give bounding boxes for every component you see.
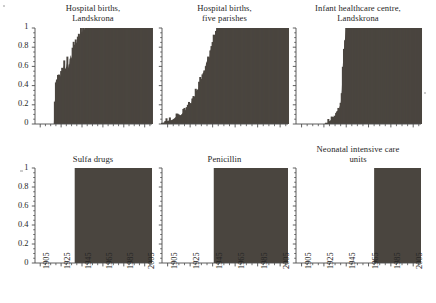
x-tick-label: 1905	[171, 252, 179, 269]
multi-panel-figure: Hospital births, Landskrona00.20.40.60.8…	[0, 0, 436, 303]
y-tick-label: 0.8	[3, 42, 29, 50]
panel-neonatal-intensive-care-units: Neonatal intensive care units	[296, 168, 421, 263]
series-yearly-bars	[160, 28, 288, 124]
x-tick-label: 1965	[238, 252, 246, 269]
x-tick-label: 1905	[305, 252, 313, 269]
y-tick-label: 1	[3, 164, 29, 172]
x-tick-label: 2005	[148, 252, 156, 269]
y-tick-label: 0.2	[3, 100, 29, 108]
series-yearly-bars	[325, 28, 422, 124]
y-tick-label: 0.4	[3, 221, 29, 229]
y-tick-label: 0.2	[3, 240, 29, 248]
x-tick-label: 1985	[261, 252, 269, 269]
panel-hospital-births-landskrona: Hospital births, Landskrona	[35, 28, 152, 124]
y-tick-label: 0.4	[3, 81, 29, 89]
scan-speck	[20, 170, 23, 172]
y-tick-label: 0	[3, 259, 29, 267]
scan-speck	[3, 5, 5, 7]
plot-area-hospital-births-five-parishes	[162, 28, 298, 134]
x-tick-label: 1985	[127, 252, 135, 269]
x-tick-label: 1925	[64, 252, 72, 269]
x-tick-label: 1985	[394, 252, 402, 269]
panel-penicillin: Penicillin	[162, 168, 288, 263]
x-tick-label: 1925	[327, 252, 335, 269]
panel-hospital-births-five-parishes: Hospital births, five parishes	[162, 28, 288, 124]
panel-title: Infant healthcare centre, Landskrona	[268, 3, 436, 23]
x-tick-label: 2005	[283, 252, 291, 269]
x-tick-label: 1945	[349, 252, 357, 269]
x-tick-label: 1925	[193, 252, 201, 269]
y-tick-label: 1	[3, 23, 29, 31]
x-tick-label: 1965	[106, 252, 114, 269]
series-yearly-bars	[53, 28, 152, 124]
series-area	[374, 168, 421, 263]
plot-area-hospital-births-landskrona	[35, 28, 162, 134]
y-tick-label: 0.6	[3, 202, 29, 210]
panel-sulfa-drugs: Sulfa drugs	[35, 168, 152, 263]
scan-speck	[424, 92, 426, 94]
series-area	[213, 168, 287, 263]
series-area	[74, 168, 151, 263]
x-tick-label: 1905	[43, 252, 51, 269]
x-tick-label: 1945	[216, 252, 224, 269]
x-tick-label: 2005	[416, 252, 424, 269]
panel-infant-healthcare-centre-landskrona: Infant healthcare centre, Landskrona	[296, 28, 421, 124]
plot-area-penicillin	[162, 168, 298, 273]
x-tick-label: 1945	[85, 252, 93, 269]
y-tick-label: 0	[3, 119, 29, 127]
y-tick-label: 0.8	[3, 183, 29, 191]
x-tick-label: 1965	[372, 252, 380, 269]
plot-area-neonatal-intensive-care-units	[296, 168, 431, 273]
panel-title: Neonatal intensive care units	[268, 144, 436, 164]
plot-area-infant-healthcare-centre-landskrona	[296, 28, 431, 134]
y-tick-label: 0.6	[3, 62, 29, 70]
plot-area-sulfa-drugs	[35, 168, 162, 273]
